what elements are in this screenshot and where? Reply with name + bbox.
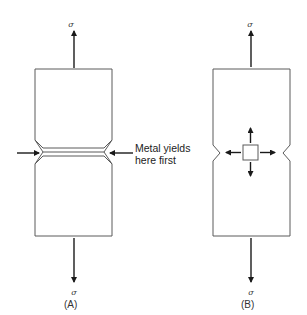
- sigma-bottom-b: σ: [248, 288, 254, 297]
- stress-element-square: [243, 145, 258, 160]
- sigma-bottom-a: σ: [71, 288, 77, 297]
- specimen-upper-a: [35, 69, 112, 148]
- specimen-b: [213, 69, 290, 236]
- label-b-text: (B): [241, 299, 254, 310]
- notch-neck-a: [35, 140, 112, 164]
- sigma-top-a: σ: [68, 20, 74, 29]
- annotation-line-2: here first: [135, 154, 176, 166]
- annotation-line-1: Metal yields: [135, 142, 190, 154]
- sigma-top-b: σ: [247, 20, 253, 29]
- label-a-text: (A): [64, 299, 77, 310]
- specimen-lower-a: [35, 156, 112, 236]
- figure-b: σ σ: [213, 20, 290, 297]
- figure-a: σ σ Metal yields here first: [17, 20, 190, 297]
